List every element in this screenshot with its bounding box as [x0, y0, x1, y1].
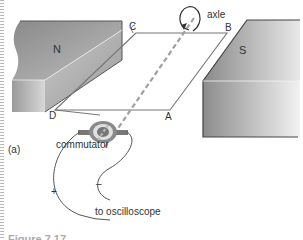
oscilloscope-label: to oscilloscope	[95, 206, 161, 217]
panel-label: (a)	[8, 144, 20, 155]
commutator-label: commutator	[56, 139, 109, 150]
generator-diagram: N S C B A D axle commutator (a) + – to o…	[0, 0, 303, 240]
north-label: N	[53, 43, 61, 55]
figure-caption: Figure 7.17	[8, 234, 66, 240]
corner-c-label: C	[129, 21, 136, 32]
corner-d-label: D	[49, 110, 56, 121]
corner-a-label: A	[165, 111, 172, 122]
south-label: S	[239, 44, 246, 56]
rotation-arrow-icon	[180, 7, 200, 31]
corner-b-label: B	[225, 22, 232, 33]
south-magnet	[203, 20, 300, 137]
negative-label: –	[96, 178, 102, 189]
axle-label: axle	[207, 9, 226, 20]
positive-label: +	[51, 186, 57, 197]
